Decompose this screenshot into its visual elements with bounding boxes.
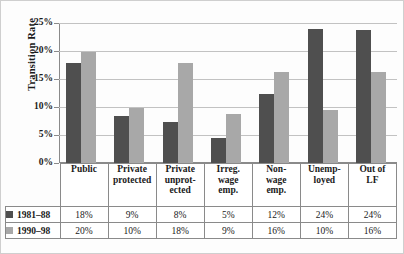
y-tick-label: 5% [7,130,53,140]
gridline [59,51,397,52]
bar [81,52,96,163]
table-cell-value: 5% [204,207,252,223]
data-table: PublicPrivateprotectedPrivateunprot-ecte… [5,163,397,239]
table-cell-value: 24% [300,207,348,223]
bar-chart-figure: Transition Rate 25%20%15%10%5%0% PublicP… [0,0,404,254]
y-tick [54,107,59,108]
legend-entry: 1981–88 [6,207,61,223]
bar [114,116,129,163]
category-header-line: Private [109,164,156,175]
table-row: 1981–8818%9%8%5%12%24%24% [6,207,397,223]
plot-area [59,23,397,163]
category-header: Irreg.wageemp. [204,164,252,207]
category-header-line: unprot- [157,175,204,186]
table-cell-value: 16% [252,223,300,239]
table-header-row: PublicPrivateprotectedPrivateunprot-ecte… [6,164,397,207]
y-tick-label: 15% [7,74,53,84]
legend-entry: 1990–98 [6,223,61,239]
legend-swatch-icon [6,211,13,218]
table-cell-value: 24% [348,207,396,223]
bar [163,122,178,163]
y-axis-line [59,23,60,163]
table-cell-value: 20% [60,223,108,239]
legend-swatch-icon [6,227,13,234]
table-cell-value: 10% [300,223,348,239]
category-header-line: emp. [253,185,300,196]
bar [356,30,371,163]
gridline [59,23,397,24]
y-tick [54,135,59,136]
bar [226,114,241,163]
category-header: Out ofLF [348,164,396,207]
table-cell-value: 10% [108,223,156,239]
category-header-line: wage [205,175,252,186]
table-cell-value: 9% [204,223,252,239]
category-header-line: wage [253,175,300,186]
category-header: Non-wageemp. [252,164,300,207]
bar [274,72,289,163]
table-cell-value: 18% [156,223,204,239]
bar [211,138,226,163]
legend-label: 1990–98 [17,226,50,236]
gridline [59,107,397,108]
bar [178,63,193,163]
category-header-line: Public [61,164,108,175]
category-header: Unemp-loyed [300,164,348,207]
bar [259,94,274,163]
category-header: Public [60,164,108,207]
bar [129,108,144,163]
category-header-line: emp. [205,185,252,196]
table-corner-spacer [6,164,61,207]
y-tick [54,79,59,80]
y-tick-label: 20% [7,46,53,56]
bar [66,63,81,163]
category-header-line: Irreg. [205,164,252,175]
gridline [59,79,397,80]
y-tick-label: 10% [7,102,53,112]
category-header-line: Private [157,164,204,175]
bar [323,110,338,163]
category-header: Privateunprot-ected [156,164,204,207]
category-header-line: protected [109,175,156,186]
category-header: Privateprotected [108,164,156,207]
y-tick-label: 25% [7,18,53,28]
table-cell-value: 12% [252,207,300,223]
table-cell-value: 8% [156,207,204,223]
table-row: 1990–9820%10%18%9%16%10%16% [6,223,397,239]
category-header-line: ected [157,185,204,196]
table-cell-value: 9% [108,207,156,223]
y-tick [54,51,59,52]
table-cell-value: 16% [348,223,396,239]
legend-label: 1981–88 [17,210,50,220]
table-cell-value: 18% [60,207,108,223]
category-header-line: Out of [349,164,396,175]
y-tick [54,23,59,24]
category-header-line: LF [349,175,396,186]
category-header-line: Non- [253,164,300,175]
bar [308,29,323,163]
category-header-line: Unemp- [301,164,348,175]
category-header-line: loyed [301,175,348,186]
bar [371,72,386,163]
